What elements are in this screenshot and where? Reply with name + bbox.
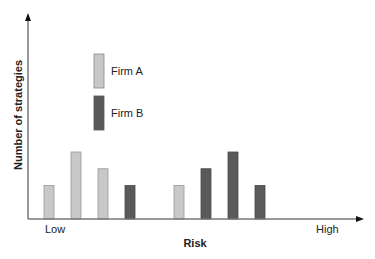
bar-firm-a-5 <box>174 186 184 220</box>
chart-canvas: Low High Risk Number of strategies Firm … <box>0 0 375 259</box>
x-axis-label: Risk <box>183 237 207 249</box>
legend-swatch-firm-b <box>94 96 104 130</box>
bar-firm-b-8 <box>255 186 265 220</box>
bar-firm-a-3 <box>98 169 108 219</box>
legend-label-firm-a: Firm A <box>111 65 143 77</box>
y-axis-arrow-icon <box>25 13 31 21</box>
bar-firm-b-4 <box>125 186 135 220</box>
bars-group <box>44 152 265 219</box>
bar-firm-a-2 <box>71 152 81 219</box>
x-tick-label-low: Low <box>45 223 65 235</box>
y-axis-label: Number of strategies <box>12 60 24 170</box>
x-axis-arrow-icon <box>356 216 364 222</box>
x-tick-label-high: High <box>316 223 339 235</box>
legend: Firm A Firm B <box>94 54 143 130</box>
legend-label-firm-b: Firm B <box>111 107 143 119</box>
bar-firm-b-7 <box>228 152 238 219</box>
legend-swatch-firm-a <box>94 54 104 88</box>
bar-firm-a-1 <box>44 186 54 220</box>
bar-firm-b-6 <box>201 169 211 219</box>
